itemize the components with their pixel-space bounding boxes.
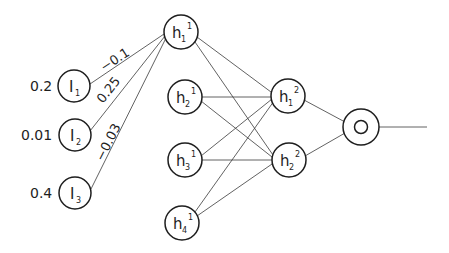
input-node-i3: I 3 [59, 177, 91, 209]
edge-h2-2-o [305, 133, 345, 156]
edge-h1-1-h2-2 [195, 42, 273, 155]
input-node-i1: I 1 [58, 70, 90, 102]
node-subscript: 2 [76, 138, 81, 147]
hidden-node-h1-2: h 1 2 [271, 79, 305, 113]
node-superscript: 2 [294, 86, 299, 95]
node-label: I [70, 127, 74, 145]
input-value-i3: 0.4 [30, 185, 52, 201]
node-superscript: 1 [191, 150, 196, 159]
input-value-i1: 0.2 [30, 78, 52, 94]
hidden-node-h2-2: h 2 2 [272, 143, 306, 177]
node-subscript: 1 [288, 99, 293, 108]
weight-label-i1: −0.1 [97, 45, 132, 75]
node-subscript: 3 [185, 163, 190, 172]
edge-h3-1-h1-2 [201, 99, 272, 156]
output-node [343, 109, 379, 145]
input-value-i2: 0.01 [21, 127, 52, 143]
node-subscript: 3 [76, 196, 81, 205]
neural-network-diagram: −0.1 0.25 −0.03 0.2 0.01 0.4 I 1 I 2 I 3… [0, 0, 449, 253]
node-label: I [69, 78, 73, 96]
output-symbol [355, 121, 368, 134]
input-node-i2: I 2 [59, 119, 91, 151]
node-superscript: 1 [187, 22, 192, 31]
node-subscript: 2 [185, 100, 190, 109]
edge-h2-1-h2-2 [201, 101, 272, 157]
hidden-node-h3-1: h 3 1 [168, 143, 202, 177]
hidden-node-h1-1: h 1 1 [164, 15, 198, 49]
node-subscript: 1 [75, 89, 80, 98]
edge-h4-1-h1-2 [195, 101, 274, 212]
hidden-node-h2-1: h 2 1 [168, 80, 202, 114]
hidden-node-h4-1: h 4 1 [165, 206, 199, 240]
edge-h4-1-h2-2 [197, 164, 272, 216]
node-subscript: 4 [182, 226, 187, 235]
edge-h1-1-h1-2 [197, 37, 271, 92]
node-superscript: 1 [188, 213, 193, 222]
node-superscript: 1 [191, 87, 196, 96]
node-subscript: 1 [181, 35, 186, 44]
node-subscript: 2 [289, 163, 294, 172]
node-label: I [70, 185, 74, 203]
weight-label-i3: −0.03 [92, 121, 123, 163]
edge-h1-2-o [304, 100, 345, 122]
node-superscript: 2 [295, 150, 300, 159]
